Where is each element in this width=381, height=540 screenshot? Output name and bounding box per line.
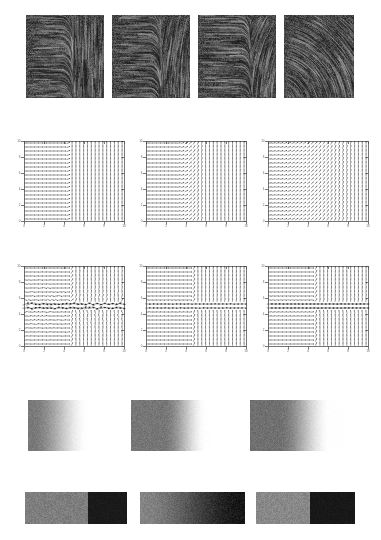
quiver-plot-lower-a	[15, 264, 126, 355]
lic-texture-panel-c	[198, 15, 276, 98]
row-quiver-lower	[0, 255, 381, 365]
quiver-plot-upper-a	[15, 139, 126, 230]
quiver-plot-upper-c	[259, 139, 370, 230]
lic-texture-panel-b	[112, 15, 190, 98]
row-scalar-fields	[0, 390, 381, 460]
row-two-tone-bars	[0, 485, 381, 535]
two-tone-bar-b	[140, 492, 245, 524]
row-quiver-upper	[0, 130, 381, 240]
row-lic-textures	[0, 0, 381, 110]
scalar-field-panel-a	[28, 400, 89, 451]
lic-texture-panel-a	[26, 15, 104, 98]
figure-canvas	[0, 0, 381, 540]
quiver-plot-lower-b	[137, 264, 248, 355]
scalar-field-panel-c	[250, 400, 345, 451]
quiver-plot-lower-c	[259, 264, 370, 355]
scalar-field-panel-b	[131, 400, 211, 451]
lic-texture-panel-d	[284, 15, 354, 98]
quiver-plot-upper-b	[137, 139, 248, 230]
two-tone-bar-c	[256, 492, 355, 524]
two-tone-bar-a	[25, 492, 127, 524]
